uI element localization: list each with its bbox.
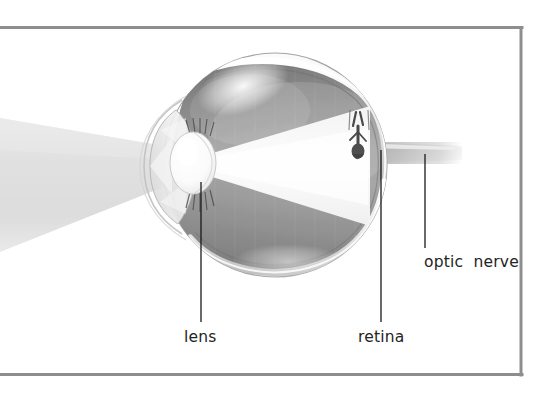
diagram-canvas: lens retina optic nerve: [0, 0, 550, 397]
label-optic-nerve: optic nerve: [424, 255, 519, 271]
lens: [170, 132, 216, 194]
label-retina: retina: [358, 330, 404, 346]
eye-diagram-illustration: [0, 0, 550, 397]
incoming-light-beam: [0, 118, 176, 252]
label-lens: lens: [184, 330, 217, 346]
